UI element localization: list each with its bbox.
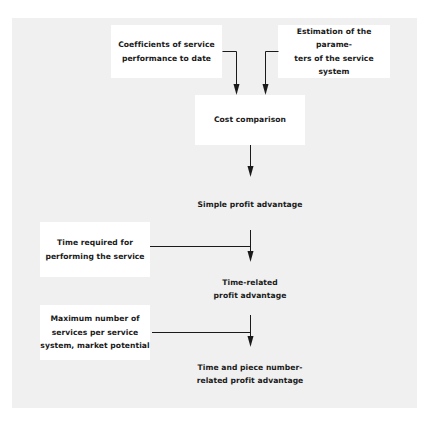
node-time-piece-text: Time and piece number- related profit ad… [197, 361, 304, 388]
input-max-services-text: Maximum number of services per service s… [40, 312, 149, 353]
node-box-cost-comparison: Cost comparison [195, 95, 305, 145]
input-box-max-services: Maximum number of services per service s… [40, 305, 150, 360]
node-time-related-text: Time-related profit advantage [214, 276, 287, 303]
node-time-related: Time-related profit advantage [190, 274, 310, 304]
input-coefficients-text: Coefficients of service performance to d… [118, 38, 215, 65]
input-box-time-required: Time required for performing the service [40, 222, 150, 277]
input-box-coefficients: Coefficients of service performance to d… [111, 25, 222, 78]
node-simple-profit: Simple profit advantage [180, 196, 320, 214]
input-time-required-text: Time required for performing the service [45, 236, 144, 263]
input-estimation-text: Estimation of the parame- ters of the se… [278, 25, 390, 79]
node-time-piece: Time and piece number- related profit ad… [180, 359, 320, 389]
input-box-estimation: Estimation of the parame- ters of the se… [278, 25, 390, 78]
node-cost-comparison-text: Cost comparison [214, 113, 286, 127]
node-simple-profit-text: Simple profit advantage [198, 198, 303, 212]
